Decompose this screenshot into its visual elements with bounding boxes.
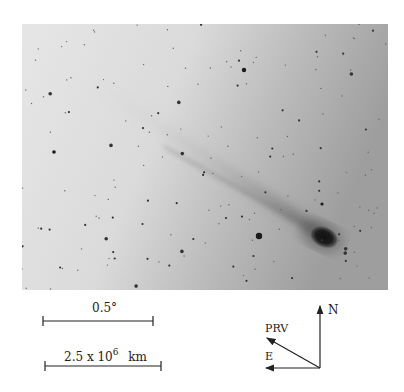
north-label: N: [328, 304, 339, 316]
scale-distance-label: 2.5 x 106 km: [64, 346, 147, 363]
east-label: E: [265, 351, 273, 363]
prv-label: PRV: [265, 323, 288, 335]
annotation-layer: [0, 0, 404, 392]
compass: [266, 306, 320, 368]
prv-arrow: [267, 338, 320, 368]
scale-angle-label: 0.5°: [92, 302, 117, 314]
scale-distance-mantissa: 2.5 x 10: [64, 350, 113, 364]
scale-bar-angle: [43, 316, 153, 326]
scale-distance-unit: km: [128, 350, 147, 364]
scale-distance-exponent: 6: [113, 347, 119, 357]
